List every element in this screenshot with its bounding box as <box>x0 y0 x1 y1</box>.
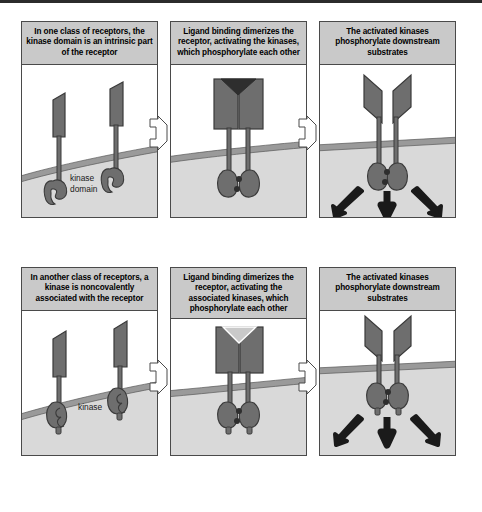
figure-grid: In one class of receptors, the kinase do… <box>0 3 482 512</box>
panel-stage: kinase <box>21 311 158 456</box>
associated-kinase <box>239 402 259 428</box>
panel-stage <box>319 311 456 456</box>
phosphate-group <box>383 399 389 405</box>
phosphate-group <box>236 176 242 182</box>
panel-caption: The activated kinases phosphorylate down… <box>319 21 456 65</box>
kinase-domain <box>368 163 388 190</box>
kinase-domain <box>387 163 407 190</box>
arrow-row1-panel2-to-panel3 <box>296 115 318 151</box>
panel-caption: Ligand binding dimerizes the receptor, a… <box>170 267 307 319</box>
panel-stage <box>170 65 307 218</box>
panel-stage <box>170 319 307 456</box>
panel-row2-col1: In another class of receptors, a kinase … <box>21 267 158 456</box>
associated-kinase <box>218 402 238 428</box>
phosphate-group <box>236 408 242 414</box>
panel-caption: In one class of receptors, the kinase do… <box>21 21 158 65</box>
arrow-row2-panel2-to-panel3 <box>296 359 318 395</box>
panel-caption: Ligand binding dimerizes the receptor, a… <box>170 21 307 65</box>
arrow-row1-panel1-to-panel2 <box>147 115 169 151</box>
phosphate-group <box>385 389 391 395</box>
phosphate-group <box>384 169 390 175</box>
panel-row2-col3: The activated kinases phosphorylate down… <box>319 267 456 456</box>
panel-caption: In another class of receptors, a kinase … <box>21 267 158 311</box>
kinase-domain <box>239 170 259 197</box>
kinase-label: kinase <box>78 402 102 413</box>
panel-stage <box>319 65 456 218</box>
kinase-domain <box>218 170 238 197</box>
kinase-domain-label: kinase domain <box>70 173 97 194</box>
phosphate-group <box>382 179 388 185</box>
panel-caption: The activated kinases phosphorylate down… <box>319 267 456 311</box>
arrow-row2-panel1-to-panel2 <box>147 359 169 395</box>
panel-row1-col1: In one class of receptors, the kinase do… <box>21 21 158 218</box>
associated-kinase <box>367 383 387 409</box>
phosphate-group <box>234 186 240 192</box>
panel-row1-col2: Ligand binding dimerizes the receptor, a… <box>170 21 307 218</box>
panel-row2-col2: Ligand binding dimerizes the receptor, a… <box>170 267 307 456</box>
associated-kinase <box>388 383 408 409</box>
panel-row1-col3: The activated kinases phosphorylate down… <box>319 21 456 218</box>
phosphate-group <box>234 418 240 424</box>
panel-stage: kinase domain <box>21 65 158 218</box>
